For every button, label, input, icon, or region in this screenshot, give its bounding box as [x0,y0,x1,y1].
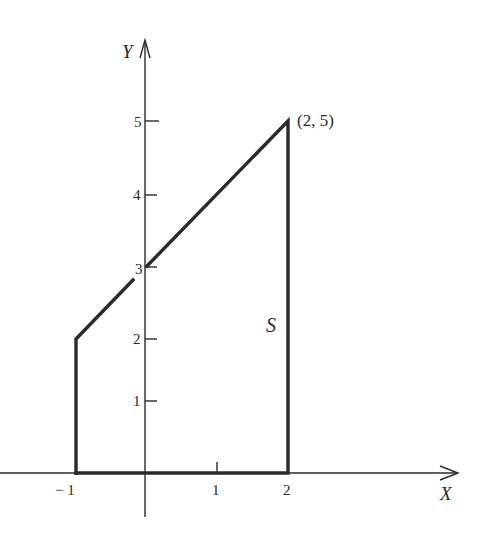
x-axis-label: X [439,483,453,504]
y-tick-label-3: 3 [135,261,143,277]
x-tick-label-1: 1 [212,482,220,498]
region-label: S [266,314,276,336]
y-axis [140,40,159,517]
x-tick-label-2: 2 [283,482,291,498]
y-axis-label: Y [122,41,135,62]
x-tick-label-neg1: − 1 [55,482,75,498]
y-tick-label-4: 4 [133,187,141,203]
region-s-boundary [76,121,288,473]
y-tick-label-2: 2 [133,331,141,347]
x-axis [0,462,458,480]
point-label: (2, 5) [297,111,334,130]
region-diagram: X Y − 1 1 2 1 2 3 4 5 (2, 5) S [0,0,487,533]
y-tick-label-1: 1 [133,393,141,409]
y-tick-label-5: 5 [134,114,142,130]
